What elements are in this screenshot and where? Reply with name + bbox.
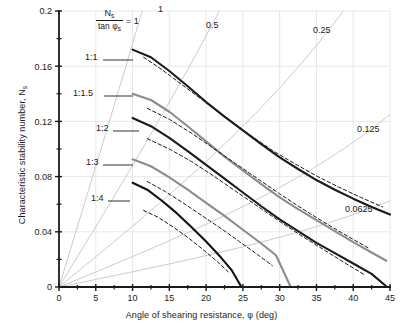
curve-label: 1:4 xyxy=(91,193,104,203)
y-axis-tick-label: 0.08 xyxy=(34,172,52,182)
chart-plot-area: 10.50.250.1250.06251:11:1.51:21:31:400.0… xyxy=(0,0,403,326)
ray-label: 0.25 xyxy=(313,25,331,35)
x-axis-tick-label: 35 xyxy=(311,293,321,303)
fraction-numerator-subscript: s xyxy=(111,12,114,19)
ray-line xyxy=(59,201,390,287)
y-axis-title: Characteristic stability number, Ns xyxy=(11,40,29,270)
x-axis-tick-label: 25 xyxy=(238,293,248,303)
y-axis-tick-label: 0.04 xyxy=(34,227,52,237)
ray-label: 0.5 xyxy=(206,20,219,30)
y-axis-tick-label: 0.16 xyxy=(34,62,52,72)
x-axis-tick-label: 10 xyxy=(128,293,138,303)
x-axis-tick-label: 45 xyxy=(385,293,395,303)
y-axis-title-text: Characteristic stability number, Ns xyxy=(17,86,27,224)
fraction-equals: = 1 xyxy=(126,16,139,26)
x-axis-tick-label: 40 xyxy=(348,293,358,303)
ray-label: 0.125 xyxy=(357,124,380,134)
x-axis-tick-label: 20 xyxy=(201,293,211,303)
y-axis-tick-label: 0.12 xyxy=(34,117,52,127)
y-axis-tick-label: 0 xyxy=(47,282,52,292)
fraction-denominator-text: tan φ xyxy=(98,21,118,31)
x-axis-tick-label: 30 xyxy=(275,293,285,303)
curve-solid xyxy=(133,50,390,215)
fraction-denominator-subscript: s xyxy=(118,25,121,32)
x-axis-tick-label: 0 xyxy=(56,293,61,303)
y-axis-title-main: Characteristic stability number, N xyxy=(17,89,27,224)
curve-dashed xyxy=(147,139,364,275)
curve-dashed xyxy=(147,181,272,265)
fraction-stack: Ns tan φs xyxy=(96,9,123,33)
y-axis-tick-label: 0.2 xyxy=(39,6,52,16)
curve-label: 1:2 xyxy=(96,123,109,133)
ray-line xyxy=(59,11,142,287)
ray-label: 1 xyxy=(158,4,163,14)
y-axis-title-subscript: s xyxy=(21,86,28,89)
curve-dashed xyxy=(147,108,368,247)
curve-label: 1:3 xyxy=(86,157,99,167)
x-axis-title: Angle of shearing resistance, φ (deg) xyxy=(0,310,403,320)
curve-label: 1:1 xyxy=(85,52,98,62)
x-axis-tick-label: 5 xyxy=(93,293,98,303)
curve-label: 1:1.5 xyxy=(73,88,93,98)
x-axis-tick-label: 15 xyxy=(164,293,174,303)
chart-figure: 10.50.250.1250.06251:11:1.51:21:31:400.0… xyxy=(0,0,403,326)
curve-solid xyxy=(133,159,291,287)
ratio-annotation: Ns tan φs = 1 xyxy=(96,9,139,33)
fraction-denominator: tan φs xyxy=(96,22,123,33)
fraction-numerator: Ns xyxy=(103,9,117,20)
ray-line xyxy=(59,11,343,287)
curve-solid xyxy=(133,183,242,287)
